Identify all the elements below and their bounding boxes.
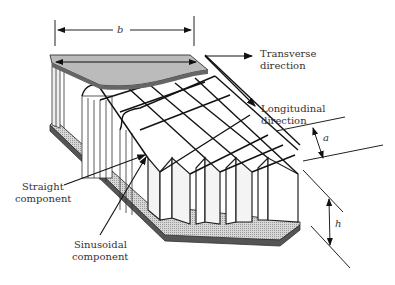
direction-arrows	[205, 56, 255, 106]
top-face-sheet	[50, 55, 208, 90]
label-straight-2: component	[15, 193, 71, 205]
label-h: h	[335, 218, 341, 230]
label-transverse-1: Transverse	[260, 48, 316, 60]
label-sinusoidal-1: Sinusoidal	[74, 239, 127, 251]
label-sinusoidal-2: component	[72, 251, 128, 263]
label-straight-1: Straight	[22, 181, 64, 193]
dimension-h	[303, 170, 350, 268]
dimension-b	[55, 16, 194, 46]
label-transverse-2: direction	[260, 60, 306, 72]
label-longitudinal-1: Longitudinal	[261, 103, 325, 115]
honeycomb-diagram	[0, 0, 395, 285]
label-longitudinal-2: direction	[261, 115, 307, 127]
label-b: b	[117, 24, 123, 36]
label-a: a	[323, 132, 329, 144]
